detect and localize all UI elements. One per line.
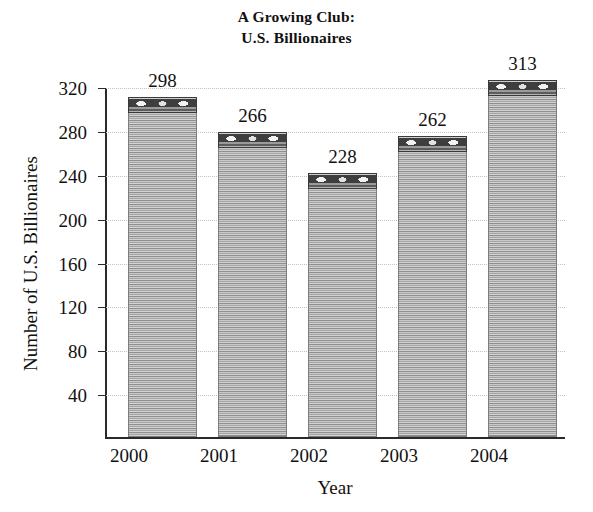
y-tick-label-120: 120 [59, 298, 88, 317]
bar-2001[interactable]: 266 2001 [218, 146, 287, 438]
banknote-stack-icon [308, 173, 377, 189]
y-tick-160: 160 [98, 264, 106, 265]
bar-2000[interactable]: 298 2000 [128, 111, 197, 438]
bar-value-2002: 228 [328, 147, 357, 166]
y-tick-80: 80 [98, 351, 106, 352]
y-tick-40: 40 [98, 395, 106, 396]
chart-title: A Growing Club: U.S. Billionaires [0, 6, 593, 48]
x-tick-label-2004: 2004 [470, 446, 508, 465]
y-tick-label-240: 240 [59, 167, 88, 186]
y-tick-200: 200 [98, 220, 106, 221]
bar-2002[interactable]: 228 2002 [308, 187, 377, 437]
bar-2003[interactable]: 262 2003 [398, 150, 467, 437]
y-tick-label-320: 320 [59, 79, 88, 98]
y-tick-label-280: 280 [59, 123, 88, 142]
y-axis-title: Number of U.S. Billionaires [18, 88, 44, 439]
y-tick-label-160: 160 [59, 255, 88, 274]
x-axis-title: Year [105, 478, 565, 497]
bar-value-2004: 313 [508, 54, 537, 73]
y-tick-label-80: 80 [68, 342, 87, 361]
banknote-stack-icon [128, 97, 197, 113]
bar-value-2003: 262 [418, 110, 447, 129]
bar-2004[interactable]: 313 2004 [488, 94, 557, 437]
plot-area: 40 80 120 160 200 240 280 320 298 2000 2… [105, 88, 565, 439]
y-tick-label-40: 40 [68, 386, 87, 405]
bar-value-2001: 266 [238, 106, 267, 125]
banknote-stack-icon [488, 80, 557, 96]
banknote-stack-icon [398, 136, 467, 152]
bar-value-2000: 298 [148, 71, 177, 90]
y-tick-320: 320 [98, 88, 106, 89]
x-tick-label-2002: 2002 [290, 446, 328, 465]
y-tick-240: 240 [98, 176, 106, 177]
y-tick-280: 280 [98, 132, 106, 133]
x-tick-label-2000: 2000 [110, 446, 148, 465]
x-tick-label-2003: 2003 [380, 446, 418, 465]
y-tick-120: 120 [98, 307, 106, 308]
banknote-stack-icon [218, 132, 287, 148]
chart-title-line-2: U.S. Billionaires [0, 27, 593, 48]
chart-title-line-1: A Growing Club: [0, 6, 593, 27]
x-axis-line [105, 437, 565, 439]
y-tick-label-200: 200 [59, 211, 88, 230]
x-tick-label-2001: 2001 [200, 446, 238, 465]
